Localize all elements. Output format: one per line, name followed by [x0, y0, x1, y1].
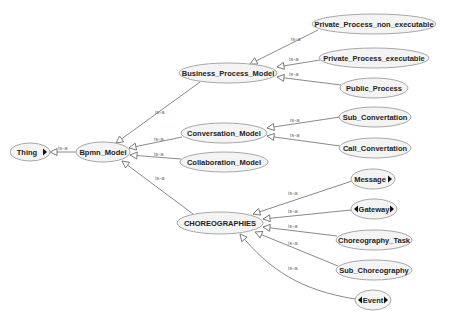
edge-choreography_task-to-choreographies: is-a — [263, 223, 337, 236]
node-label: Sub_Convertation — [343, 113, 408, 122]
node-conversation-model[interactable]: Conversation_Model — [181, 123, 267, 143]
node-gateway[interactable]: Gateway — [351, 199, 397, 219]
node-bpmn-model[interactable]: Bpmn_Model — [76, 142, 130, 162]
edge-label: is-a — [290, 117, 300, 123]
edge-label: is-a — [288, 223, 298, 229]
edge-label: is-a — [58, 145, 68, 151]
node-label: Business_Process_Model — [182, 69, 275, 78]
node-event[interactable]: Event — [355, 290, 391, 310]
is-a-edge-line — [263, 210, 351, 219]
node-business-process-model[interactable]: Business_Process_Model — [179, 63, 277, 83]
is-a-edge-line — [253, 181, 352, 214]
node-private-process-executable[interactable]: Private_Process_executable — [319, 48, 429, 68]
is-a-edge-line — [263, 227, 337, 236]
edge-label: is-a — [289, 71, 299, 77]
edge-call_convertation-to-conversation_model: is-a — [267, 132, 340, 146]
node-label: Sub_Choreography — [339, 266, 409, 275]
edge-private_process_executable-to-business_process_model: is-a — [277, 56, 320, 69]
hollow-triangle-arrow-icon — [129, 143, 137, 150]
hollow-triangle-arrow-icon — [267, 133, 274, 140]
node-choreographies[interactable]: CHOREOGRAPHIES — [177, 212, 263, 234]
edge-bpmn_model-to-thing: is-a — [50, 145, 76, 156]
node-label: Gateway — [359, 205, 391, 214]
node-label: CHOREOGRAPHIES — [184, 219, 256, 228]
edge-gateway-to-choreographies: is-a — [263, 208, 351, 222]
edge-choreographies-to-bpmn_model: is-a — [122, 161, 193, 214]
node-label: Collaboration_Model — [187, 158, 261, 167]
edge-label: is-a — [288, 265, 298, 271]
hollow-triangle-arrow-icon — [253, 208, 261, 215]
is-a-edge-line — [250, 30, 318, 64]
edge-label: is-a — [154, 136, 164, 142]
edge-collaboration_model-to-bpmn_model: is-a — [130, 151, 181, 159]
edge-sub_choreography-to-choreographies: is-a — [255, 231, 338, 266]
edge-label: is-a — [288, 190, 298, 196]
hollow-triangle-arrow-icon — [263, 215, 270, 222]
is-a-edge-line — [122, 161, 193, 214]
hollow-triangle-arrow-icon — [50, 149, 57, 156]
node-sub-convertation[interactable]: Sub_Convertation — [339, 107, 411, 127]
hollow-triangle-arrow-icon — [255, 231, 263, 237]
hollow-triangle-arrow-icon — [250, 58, 258, 64]
node-label: Message — [354, 175, 386, 184]
edge-label: is-a — [155, 109, 165, 115]
hollow-triangle-arrow-icon — [122, 161, 130, 168]
node-label: Conversation_Model — [187, 129, 261, 138]
node-collaboration-model[interactable]: Collaboration_Model — [180, 152, 268, 172]
edge-label: is-a — [288, 240, 298, 246]
node-private-process-non-executable[interactable]: Private_Process_non_executable — [312, 14, 436, 34]
nodes-layer: ThingBpmn_ModelBusiness_Process_ModelPri… — [10, 14, 436, 310]
node-label: Public_Process — [346, 84, 402, 93]
node-choreography-task[interactable]: Choreography_Task — [336, 230, 412, 250]
node-sub-choreography[interactable]: Sub_Choreography — [336, 260, 412, 280]
is-a-edge-line — [255, 232, 338, 266]
hollow-triangle-arrow-icon — [267, 123, 274, 130]
node-thing[interactable]: Thing — [10, 143, 50, 161]
ontology-graph[interactable]: is-ais-ais-ais-ais-ais-ais-ais-ais-ais-a… — [0, 0, 449, 324]
edge-label: is-a — [291, 36, 301, 42]
is-a-edge-line — [277, 77, 341, 85]
node-message[interactable]: Message — [351, 169, 395, 189]
node-label: Private_Process_non_executable — [314, 20, 433, 29]
node-public-process[interactable]: Public_Process — [340, 78, 408, 98]
hollow-triangle-arrow-icon — [263, 224, 270, 231]
edge-label: is-a — [288, 208, 298, 214]
edge-public_process-to-business_process_model: is-a — [277, 71, 341, 85]
hollow-triangle-arrow-icon — [130, 152, 137, 159]
edge-message-to-choreographies: is-a — [253, 181, 352, 215]
is-a-edge-line — [267, 136, 340, 146]
node-label: Thing — [17, 148, 38, 157]
hollow-triangle-arrow-icon — [277, 74, 284, 81]
node-call-convertation[interactable]: Call_Convertation — [339, 138, 411, 158]
edge-conversation_model-to-bpmn_model: is-a — [129, 136, 182, 150]
edge-sub_convertation-to-conversation_model: is-a — [267, 117, 340, 130]
edge-label: is-a — [154, 151, 164, 157]
node-label: Choreography_Task — [338, 236, 411, 245]
edge-label: is-a — [290, 132, 300, 138]
is-a-edge-line — [267, 117, 340, 128]
edge-private_process_non_executable-to-business_process_model: is-a — [250, 30, 318, 64]
edge-label: is-a — [155, 175, 165, 181]
node-label: Call_Convertation — [343, 144, 408, 153]
hollow-triangle-arrow-icon — [277, 62, 284, 69]
hollow-triangle-arrow-icon — [116, 136, 124, 143]
edge-label: is-a — [289, 56, 299, 62]
node-label: Event — [363, 296, 384, 305]
node-label: Private_Process_executable — [323, 54, 424, 63]
node-label: Bpmn_Model — [79, 148, 126, 157]
